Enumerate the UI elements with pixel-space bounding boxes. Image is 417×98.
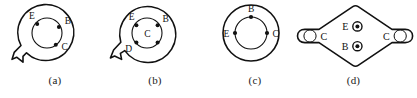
figure-panel-d: C C E B (d) — [290, 0, 417, 98]
lead-label-b-c: B — [248, 4, 254, 14]
figure-panel-b: E B D C (b) — [100, 0, 210, 98]
figure-d-drawing: C C E B — [290, 0, 417, 74]
lead-dot-c-c — [265, 31, 269, 35]
figure-sheet: E B C (a) E B D C (b) — [0, 0, 417, 98]
figure-caption-d: (d) — [290, 74, 417, 87]
lead-label-b-b: B — [163, 14, 169, 24]
lead-dot-e-b — [134, 23, 138, 27]
pin-core-e-d — [355, 24, 359, 28]
mounting-hole-left-d — [304, 30, 316, 42]
lead-label-e-d: E — [342, 21, 348, 32]
lead-dot-e-a — [35, 22, 39, 26]
figure-caption-b: (b) — [100, 74, 210, 87]
lead-label-e-a: E — [29, 11, 35, 21]
lead-dot-d-b — [134, 40, 138, 44]
pin-core-b-d — [355, 44, 359, 48]
lead-dot-b-c — [249, 15, 253, 19]
figure-caption-a: (a) — [0, 74, 110, 87]
lead-dot-b-a — [57, 25, 61, 29]
lead-dot-unlabeled-b — [156, 40, 160, 44]
lead-label-b-a: B — [65, 16, 71, 26]
lead-label-c-right-d: C — [383, 31, 390, 42]
lead-circle-c — [235, 17, 267, 49]
lead-dot-b-b — [156, 23, 160, 27]
lead-dot-e-c — [233, 31, 237, 35]
package-body-outline-a — [12, 5, 74, 63]
lead-dot-c-a — [54, 43, 58, 47]
lead-label-e-c: E — [224, 29, 230, 39]
figure-a-drawing: E B C — [0, 0, 110, 74]
mounting-hole-right-d — [394, 30, 406, 42]
figure-panel-a: E B C (a) — [0, 0, 110, 98]
center-label-c-b: C — [144, 29, 150, 39]
lead-label-c-left-d: C — [321, 31, 328, 42]
figure-b-drawing: E B D C — [100, 0, 210, 74]
package-body-outline-d — [298, 6, 413, 67]
lead-label-b-d: B — [342, 41, 349, 52]
lead-label-e-b: E — [129, 12, 135, 22]
lead-label-c-c: C — [272, 29, 278, 39]
lead-label-c-a: C — [62, 42, 68, 52]
lead-label-d-b: D — [125, 44, 132, 54]
